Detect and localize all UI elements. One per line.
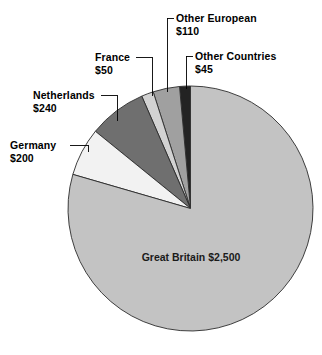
- callout-other-european-value: $110: [176, 25, 257, 38]
- slice-label-great-britain-value: $2,500: [208, 251, 240, 263]
- callout-france: France $50: [95, 51, 130, 76]
- leader-line-france: [136, 57, 152, 96]
- callout-netherlands-value: $240: [33, 102, 95, 115]
- leader-line-other-european: [167, 18, 174, 92]
- callout-netherlands-name: Netherlands: [33, 89, 95, 101]
- pie-chart-figure: Other European $110 Other Countries $45 …: [0, 0, 322, 355]
- callout-other-countries-name: Other Countries: [195, 50, 276, 62]
- callout-other-countries: Other Countries $45: [195, 50, 276, 75]
- callout-germany-name: Germany: [10, 139, 56, 151]
- callout-france-name: France: [95, 51, 130, 63]
- callout-other-countries-value: $45: [195, 63, 276, 76]
- callout-other-european-name: Other European: [176, 12, 257, 24]
- leader-line-other-countries: [186, 56, 193, 89]
- callout-germany-value: $200: [10, 152, 56, 165]
- slice-label-great-britain: Great Britain $2,500: [131, 251, 251, 264]
- callout-germany: Germany $200: [10, 139, 56, 164]
- callout-other-european: Other European $110: [176, 12, 257, 37]
- slice-label-great-britain-name: Great Britain: [142, 251, 206, 263]
- callout-france-value: $50: [95, 64, 130, 77]
- callout-netherlands: Netherlands $240: [33, 89, 95, 114]
- pie-slices-group: [68, 86, 313, 331]
